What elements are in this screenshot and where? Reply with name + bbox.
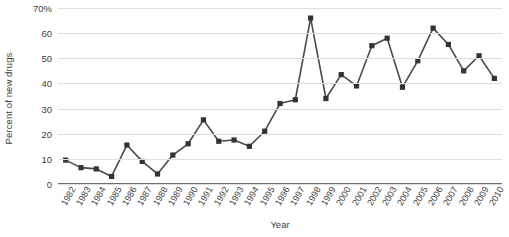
x-tick-label: 1999 bbox=[319, 185, 338, 207]
data-point-marker bbox=[216, 139, 221, 144]
y-tick-label: 20 bbox=[41, 128, 52, 139]
x-tick-label: 2001 bbox=[350, 185, 369, 207]
data-point-marker bbox=[431, 26, 436, 31]
data-point-marker bbox=[94, 166, 99, 171]
x-tick-label: 1991 bbox=[196, 185, 215, 207]
data-point-marker bbox=[446, 42, 451, 47]
y-tick-label: 60 bbox=[41, 28, 52, 39]
x-tick-label: 1986 bbox=[120, 185, 139, 207]
gridline bbox=[58, 134, 502, 135]
y-tick-label: 40 bbox=[41, 78, 52, 89]
data-point-marker bbox=[124, 142, 129, 147]
data-point-marker bbox=[308, 15, 313, 20]
x-tick-label: 1983 bbox=[74, 185, 93, 207]
x-tick-label: 1988 bbox=[151, 185, 170, 207]
y-tick-label: 70% bbox=[33, 3, 52, 14]
x-tick-label: 2006 bbox=[426, 185, 445, 207]
y-tick-label: 30 bbox=[41, 103, 52, 114]
x-tick-label: 1995 bbox=[258, 185, 277, 207]
data-point-marker bbox=[201, 117, 206, 122]
data-point-marker bbox=[369, 43, 374, 48]
data-point-marker bbox=[461, 68, 466, 73]
y-tick-label: 10 bbox=[41, 153, 52, 164]
x-tick-label: 2005 bbox=[411, 185, 430, 207]
data-point-marker bbox=[277, 101, 282, 106]
x-tick-label: 2007 bbox=[441, 185, 460, 207]
x-tick-label: 1997 bbox=[288, 185, 307, 207]
y-axis-tick-labels: 010203040506070% bbox=[18, 0, 56, 196]
y-tick-label: 50 bbox=[41, 53, 52, 64]
gridline bbox=[58, 109, 502, 110]
x-tick-label: 1985 bbox=[105, 185, 124, 207]
gridline bbox=[58, 33, 502, 34]
x-tick-label: 2008 bbox=[457, 185, 476, 207]
data-point-marker bbox=[492, 76, 497, 81]
x-tick-label: 1984 bbox=[89, 185, 108, 207]
x-tick-label: 2009 bbox=[472, 185, 491, 207]
x-tick-label: 2010 bbox=[487, 185, 506, 207]
gridline bbox=[58, 58, 502, 59]
data-point-marker bbox=[323, 96, 328, 101]
line-series-svg bbox=[58, 8, 502, 184]
gridline bbox=[58, 83, 502, 84]
y-axis-title-text: Percent of new drugs bbox=[4, 52, 15, 144]
x-axis-title: Year bbox=[58, 219, 502, 230]
data-point-marker bbox=[247, 144, 252, 149]
x-tick-label: 1994 bbox=[242, 185, 261, 207]
data-point-marker bbox=[339, 72, 344, 77]
data-point-marker bbox=[400, 85, 405, 90]
plot-area bbox=[58, 8, 502, 184]
x-tick-label: 1989 bbox=[166, 185, 185, 207]
data-point-marker bbox=[170, 152, 175, 157]
data-point-marker bbox=[231, 137, 236, 142]
x-tick-label: 1993 bbox=[227, 185, 246, 207]
chart-screenshot: Percent of new drugs 010203040506070% 19… bbox=[0, 0, 509, 237]
data-point-marker bbox=[385, 36, 390, 41]
series-line bbox=[66, 18, 495, 176]
data-point-marker bbox=[293, 97, 298, 102]
x-tick-label: 1998 bbox=[304, 185, 323, 207]
x-tick-label: 2004 bbox=[395, 185, 414, 207]
data-point-marker bbox=[155, 171, 160, 176]
y-axis-title: Percent of new drugs bbox=[0, 0, 18, 196]
y-tick-label: 0 bbox=[47, 179, 52, 190]
x-tick-label: 2000 bbox=[334, 185, 353, 207]
x-axis-tick-labels: 1982198319841985198619871988198919901991… bbox=[58, 185, 502, 217]
x-tick-label: 1987 bbox=[135, 185, 154, 207]
x-tick-label: 1992 bbox=[212, 185, 231, 207]
data-point-marker bbox=[186, 141, 191, 146]
x-tick-label: 2003 bbox=[380, 185, 399, 207]
data-point-marker bbox=[109, 174, 114, 179]
x-tick-label: 1982 bbox=[59, 185, 78, 207]
x-tick-label: 1996 bbox=[273, 185, 292, 207]
gridline bbox=[58, 159, 502, 160]
x-tick-label: 2002 bbox=[365, 185, 384, 207]
gridline bbox=[58, 8, 502, 9]
x-tick-label: 1990 bbox=[181, 185, 200, 207]
data-point-marker bbox=[78, 165, 83, 170]
